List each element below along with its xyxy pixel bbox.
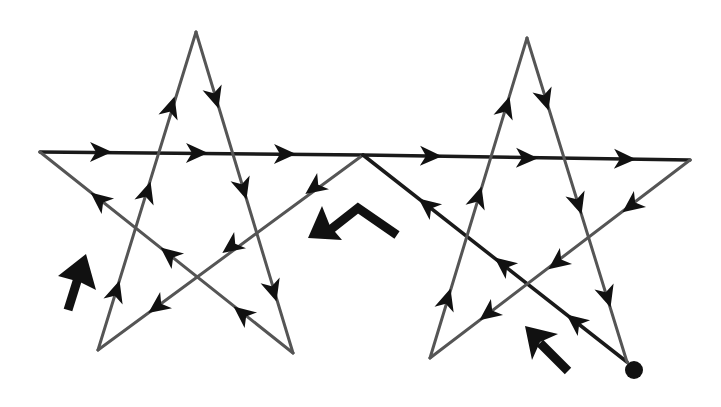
arrow-icon bbox=[142, 292, 172, 321]
arrow-icon bbox=[135, 179, 161, 206]
hint-arrow-right bbox=[525, 326, 568, 371]
arrow-icon bbox=[494, 94, 520, 121]
arrow-icon bbox=[216, 232, 246, 261]
hint-arrow-left bbox=[58, 254, 96, 310]
start-dot bbox=[625, 361, 643, 379]
left-star-edge-shared-to-bl bbox=[98, 155, 363, 350]
hint-arrow-center bbox=[308, 206, 397, 240]
arrow-icon bbox=[231, 176, 257, 203]
right-star bbox=[363, 38, 690, 362]
arrow-icon bbox=[466, 184, 492, 211]
arrow-icon bbox=[473, 299, 503, 328]
arrow-icon bbox=[104, 278, 130, 305]
arrow-icon bbox=[533, 87, 559, 114]
arrow-icon bbox=[595, 284, 621, 311]
arrow-icon bbox=[203, 85, 229, 112]
arrow-icon bbox=[435, 286, 461, 313]
arrow-icon bbox=[566, 191, 592, 218]
left-star bbox=[40, 32, 363, 353]
right-star-edge-br-to-shared bbox=[363, 155, 627, 362]
arrow-icon bbox=[261, 278, 287, 305]
two-stars-diagram bbox=[0, 0, 721, 407]
